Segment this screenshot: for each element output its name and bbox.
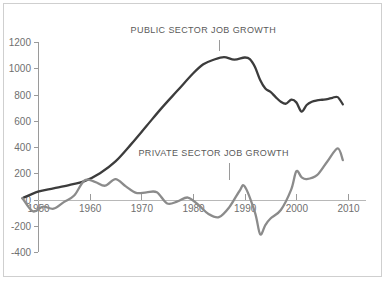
series-label-private: PRIVATE SECTOR JOB GROWTH: [138, 148, 289, 158]
y-axis: 120010008006004002000-200-400: [9, 37, 39, 258]
line-chart: 120010008006004002000-200-400 1950196019…: [0, 0, 386, 281]
series-line-private: [23, 148, 343, 234]
x-tick-label: 2010: [337, 203, 360, 214]
y-tick-label: -200: [11, 221, 31, 232]
y-tick-label: 200: [14, 168, 31, 179]
y-tick-label: -400: [11, 247, 31, 258]
series-annotations: PUBLIC SECTOR JOB GROWTHPRIVATE SECTOR J…: [131, 25, 289, 180]
y-tick-label: 1000: [9, 63, 32, 74]
y-tick-label: 1200: [9, 37, 32, 48]
x-tick-label: 1970: [131, 203, 154, 214]
y-tick-label: 800: [14, 90, 31, 101]
series-label-public: PUBLIC SECTOR JOB GROWTH: [131, 25, 276, 35]
y-tick-label: 400: [14, 142, 31, 153]
x-axis: 1950196019701980199020002010: [27, 194, 360, 214]
chart-page: 120010008006004002000-200-400 1950196019…: [0, 0, 386, 281]
y-tick-label: 600: [14, 116, 31, 127]
x-tick-label: 1960: [79, 203, 102, 214]
x-tick-label: 2000: [286, 203, 309, 214]
